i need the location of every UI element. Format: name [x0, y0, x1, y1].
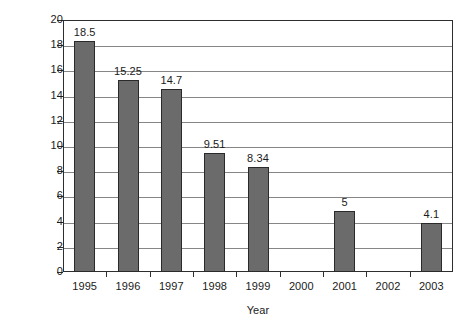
y-tick-label: 18 [17, 39, 63, 50]
x-tick-mark [150, 272, 151, 277]
bar-2003 [421, 223, 442, 272]
x-tick-label-2003: 2003 [406, 280, 456, 292]
y-tick-label: 16 [17, 64, 63, 75]
y-tick-label: 14 [17, 90, 63, 101]
x-tick-mark [410, 272, 411, 277]
y-tick-label: 4 [17, 216, 63, 227]
bar-1999 [248, 167, 269, 272]
bar-1995 [74, 41, 95, 272]
bar-value-label-1999: 8.34 [228, 153, 288, 164]
y-tick-label: 12 [17, 115, 63, 126]
bar-value-label-1998: 9.51 [185, 139, 245, 150]
x-tick-mark [193, 272, 194, 277]
y-axis-ticks: 02468101214161820 [0, 0, 63, 333]
x-axis-title: Year [63, 304, 453, 317]
y-tick-label: 2 [17, 241, 63, 252]
prevalence-by-year-bar-chart: Prevalence (%) 02468101214161820 18.515.… [0, 0, 471, 333]
y-tick-label: 10 [17, 140, 63, 151]
y-tick-label: 6 [17, 190, 63, 201]
bar-1997 [161, 89, 182, 272]
x-tick-mark [106, 272, 107, 277]
bar-value-label-2001: 5 [315, 197, 375, 208]
bar-2001 [334, 211, 355, 272]
y-tick-label: 8 [17, 165, 63, 176]
y-tick-label: 20 [17, 14, 63, 25]
bar-1996 [118, 80, 139, 272]
gridline [64, 46, 452, 47]
x-tick-mark [323, 272, 324, 277]
bar-value-label-1997: 14.7 [141, 75, 201, 86]
x-tick-mark [366, 272, 367, 277]
x-tick-mark [236, 272, 237, 277]
y-tick-label: 0 [17, 266, 63, 277]
x-tick-mark [280, 272, 281, 277]
bar-value-label-1995: 18.5 [55, 27, 115, 38]
bar-1998 [204, 153, 225, 272]
bar-value-label-2003: 4.1 [401, 209, 461, 220]
